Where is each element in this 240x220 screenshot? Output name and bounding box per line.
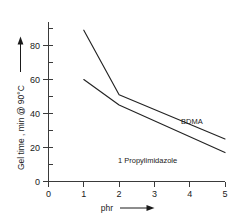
y-axis-title-group: Gel time , min @ 90°C xyxy=(16,37,26,171)
y-tick-label: 40 xyxy=(30,109,40,119)
y-tick-label: 60 xyxy=(30,75,40,85)
series-line-bdma xyxy=(84,30,225,139)
x-tick-label: 2 xyxy=(117,189,122,199)
x-axis-ticks xyxy=(49,182,226,188)
y-axis-major-ticks xyxy=(43,46,49,182)
series-annotation-bdma: BDMA xyxy=(181,117,203,126)
series-annotation-1-propylimidazole: 1 Propylimidazole xyxy=(118,156,177,165)
x-axis-tick-labels: 0 1 2 3 4 5 xyxy=(46,189,228,199)
x-tick-label: 1 xyxy=(81,189,86,199)
x-tick-label: 5 xyxy=(222,189,227,199)
x-tick-label: 0 xyxy=(46,189,51,199)
y-axis-title: Gel time , min @ 90°C xyxy=(16,85,26,170)
right-arrow-icon xyxy=(147,205,155,211)
y-tick-label: 80 xyxy=(30,41,40,51)
y-axis-minor-ticks xyxy=(49,29,54,165)
up-arrow-icon xyxy=(18,37,24,45)
y-tick-label: 20 xyxy=(30,143,40,153)
x-axis-title: phr xyxy=(101,203,113,213)
y-axis-tick-labels: 0 20 40 60 80 xyxy=(30,41,40,187)
chart-canvas: 0 20 40 60 80 0 1 2 3 4 5 BDMA 1 Propyli… xyxy=(0,0,240,220)
gel-time-line-chart: 0 20 40 60 80 0 1 2 3 4 5 BDMA 1 Propyli… xyxy=(0,0,240,220)
x-tick-label: 4 xyxy=(187,189,192,199)
x-tick-label: 3 xyxy=(152,189,157,199)
x-axis-title-group: phr xyxy=(101,203,155,213)
y-tick-label: 0 xyxy=(35,177,40,187)
series-line-1-propylimidazole xyxy=(84,80,225,153)
